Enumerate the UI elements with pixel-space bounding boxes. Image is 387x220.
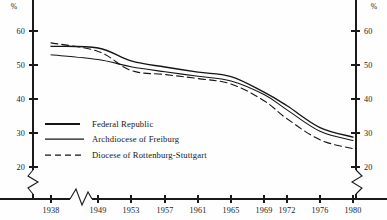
right-tick-label-20: 20	[364, 163, 373, 172]
x-tick-label-1953: 1953	[122, 206, 139, 215]
series-line-diocese-of-rottenburg-stuttgart	[51, 43, 353, 149]
left-tick-label-30: 30	[16, 129, 25, 138]
left-tick-label-60: 60	[16, 27, 25, 36]
data-series-group	[51, 43, 353, 149]
legend-label-federal-republic: Federal Republic	[92, 119, 153, 129]
chart-legend: Federal Republic Archdiocese of Freiburg…	[45, 119, 207, 160]
x-tick-label-1980: 1980	[344, 206, 361, 215]
x-tick-label-1976: 1976	[311, 206, 328, 215]
x-tick-label-1961: 1961	[189, 206, 206, 215]
x-tick-label-1969: 1969	[255, 206, 272, 215]
x-axis-tick-labels: 1938194919531957196119651969197219761980	[42, 206, 361, 215]
x-tick-label-1965: 1965	[222, 206, 239, 215]
left-tick-label-20: 20	[16, 163, 25, 172]
x-tick-label-1938: 1938	[42, 206, 59, 215]
left-axis-break-zigzag	[28, 170, 38, 194]
right-axis-break-zigzag	[352, 170, 362, 194]
chart-container: % 60 50 40 30 20 % 60 50 40 30 20 193819…	[0, 0, 387, 220]
right-tick-label-30: 30	[364, 129, 373, 138]
x-tick-label-1957: 1957	[156, 206, 173, 215]
right-tick-label-40: 40	[364, 95, 373, 104]
legend-label-archdiocese-of-freiburg: Archdiocese of Freiburg	[92, 134, 180, 144]
x-tick-label-1949: 1949	[89, 206, 106, 215]
left-axis-unit-label: %	[11, 2, 18, 11]
x-axis-break-zigzag	[70, 189, 92, 205]
right-tick-label-60: 60	[364, 27, 373, 36]
right-tick-label-50: 50	[364, 61, 373, 70]
line-chart-canvas: % 60 50 40 30 20 % 60 50 40 30 20 193819…	[0, 0, 387, 220]
legend-label-diocese-of-rottenburg-stuttgart: Diocese of Rottenburg-Stuttgart	[92, 150, 207, 160]
left-tick-label-40: 40	[16, 95, 25, 104]
bottom-axis	[0, 189, 387, 205]
x-tick-label-1972: 1972	[278, 206, 295, 215]
left-tick-label-50: 50	[16, 61, 25, 70]
right-axis-unit-label: %	[371, 2, 378, 11]
